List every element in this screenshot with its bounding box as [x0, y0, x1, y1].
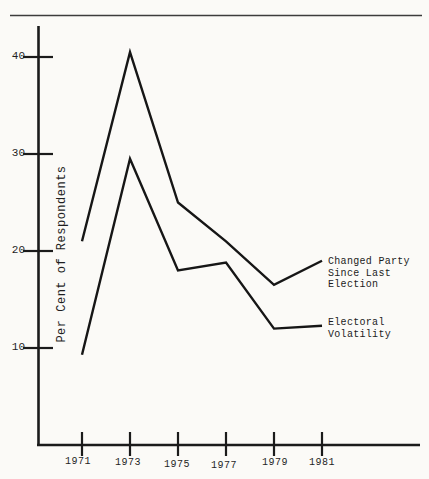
figure-scanned-chart: 1974-83 40 30 20 10 1971 1973 1	[0, 0, 429, 479]
x-tick-label-1971: 1971	[65, 456, 91, 467]
electoral-volatility-line	[82, 159, 322, 355]
y-tick-label-10: 10	[4, 341, 25, 353]
series-label-line: Volatility	[328, 329, 391, 341]
y-tick-label-30: 30	[4, 147, 25, 159]
series-label-electoral-volatility: Electoral Volatility	[328, 317, 391, 340]
y-tick-label-20: 20	[4, 244, 25, 256]
x-tick-label-1977: 1977	[211, 460, 237, 471]
series-label-line: Since Last	[328, 268, 410, 280]
y-axis-title: Per Cent of Respondents	[55, 144, 71, 364]
changed-party-line	[82, 52, 322, 285]
series-label-line: Election	[328, 279, 410, 291]
y-tick-label-40: 40	[4, 50, 25, 62]
series-label-line: Electoral	[328, 317, 391, 329]
series-label-changed-party: Changed Party Since Last Election	[328, 256, 410, 291]
series-label-line: Changed Party	[328, 256, 410, 268]
x-tick-label-1981: 1981	[309, 457, 335, 468]
x-tick-label-1975: 1975	[164, 459, 190, 470]
x-tick-label-1979: 1979	[262, 457, 288, 468]
x-tick-label-1973: 1973	[115, 457, 141, 468]
